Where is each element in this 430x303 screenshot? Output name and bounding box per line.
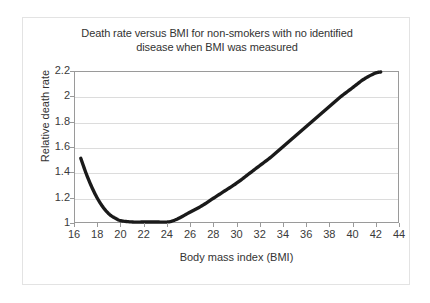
- y-axis-tick-labels: 11.21.41.61.822.2: [23, 71, 70, 223]
- x-axis-tick-mark: [74, 223, 75, 227]
- x-axis-tick-mark: [237, 223, 238, 227]
- x-axis-tick-mark: [190, 223, 191, 227]
- x-axis-tick-mark: [260, 223, 261, 227]
- chart-figure: Death rate versus BMI for non-smokers wi…: [22, 17, 410, 285]
- x-axis-tick-mark: [97, 223, 98, 227]
- x-axis-tick-mark: [376, 223, 377, 227]
- x-axis-tick-mark: [144, 223, 145, 227]
- y-axis-tick-label: 1: [26, 216, 70, 228]
- x-axis-tick-mark: [167, 223, 168, 227]
- y-axis-tick-label: 2.2: [26, 64, 70, 76]
- x-axis-tick-mark: [120, 223, 121, 227]
- y-axis-tick-label: 1.8: [26, 115, 70, 127]
- y-axis-tick-label: 1.4: [26, 165, 70, 177]
- chart-title: Death rate versus BMI for non-smokers wi…: [23, 26, 411, 54]
- x-axis-tick-mark: [329, 223, 330, 227]
- y-axis-tick-label: 1.2: [26, 191, 70, 203]
- x-axis-tick-label: 44: [384, 228, 414, 240]
- x-axis-tick-mark: [283, 223, 284, 227]
- x-axis-tick-mark: [213, 223, 214, 227]
- x-axis-tick-labels: 161820222426283032343638404244: [74, 228, 399, 244]
- plot-area: [74, 71, 399, 223]
- chart-title-line-2: disease when BMI was measured: [23, 40, 411, 54]
- y-axis-tick-label: 1.6: [26, 140, 70, 152]
- chart-title-line-1: Death rate versus BMI for non-smokers wi…: [81, 27, 352, 39]
- x-axis-tick-mark: [399, 223, 400, 227]
- x-axis-label: Body mass index (BMI): [74, 251, 399, 263]
- death-rate-curve: [75, 72, 398, 222]
- x-axis-tick-mark: [306, 223, 307, 227]
- x-axis-tick-mark: [353, 223, 354, 227]
- y-axis-tick-label: 2: [26, 89, 70, 101]
